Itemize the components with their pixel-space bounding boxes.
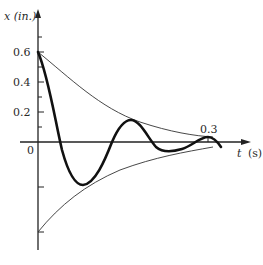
chart: x (in.) 0.6 0.4 0.2 0 0.3 t (s) [0,0,263,265]
damped-response-curve [38,52,221,185]
upper-envelope [38,52,213,137]
y-tick-label-0.6: 0.6 [13,46,31,59]
origin-label: 0 [27,144,34,157]
y-tick-label-0.2: 0.2 [13,106,31,119]
y-tick-label-0.4: 0.4 [13,76,31,89]
x-axis-label: t (s) [237,147,262,160]
x-tick-label-0.3: 0.3 [200,123,218,136]
y-axis-label: x (in.) [4,10,36,23]
x-axis-arrow-icon [241,139,251,145]
